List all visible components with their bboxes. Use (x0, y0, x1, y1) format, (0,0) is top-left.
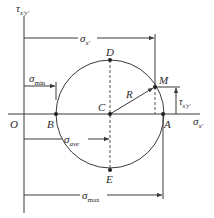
label-m: M (158, 74, 169, 86)
label-e: E (105, 173, 113, 185)
label-b: B (47, 118, 54, 130)
sigma-x-label: σx′ (80, 32, 91, 47)
tau-axis-label: τx′y′ (16, 2, 30, 17)
tau-xy-label: τx′y′ (179, 96, 191, 109)
mohrs-circle-diagram: τx′y′ σx′ O B A C D E M R σx′ σmin σave … (0, 0, 214, 218)
point-b (54, 112, 58, 116)
label-d: D (105, 46, 114, 58)
point-c (108, 112, 112, 116)
sigma-max-label: σmax (82, 189, 100, 204)
point-d (108, 58, 112, 62)
label-r: R (125, 88, 133, 100)
label-a: A (163, 118, 171, 130)
point-a (161, 112, 165, 116)
label-c: C (98, 101, 106, 113)
sigma-min-label: σmin (29, 72, 46, 87)
point-e (108, 168, 112, 172)
origin-label: O (10, 118, 18, 130)
sigma-axis-label: σx′ (193, 115, 204, 130)
point-m (153, 85, 157, 89)
